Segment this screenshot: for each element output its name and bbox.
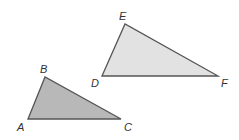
vertex-label-d: D (91, 77, 99, 89)
vertex-label-f: F (221, 77, 229, 89)
vertex-label-c: C (124, 121, 132, 133)
triangle-abc (28, 77, 121, 119)
vertex-label-e: E (119, 10, 127, 22)
vertex-label-a: A (16, 121, 24, 133)
vertex-label-b: B (40, 63, 47, 75)
triangles-diagram: A B C D E F (0, 0, 239, 140)
triangle-def (102, 24, 218, 76)
